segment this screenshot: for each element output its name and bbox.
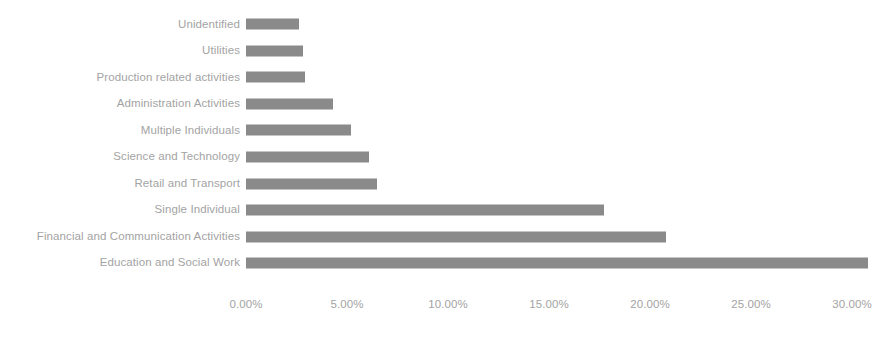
bar-chart: UnidentifiedUtilitiesProduction related … (0, 0, 886, 340)
category-label: Administration Activities (0, 98, 240, 110)
bar-track (246, 98, 866, 109)
bar-track (246, 72, 866, 83)
axis-tick-label: 10.00% (428, 298, 468, 310)
bar-row: Science and Technology (0, 144, 886, 171)
x-axis: 0.00%5.00%10.00%15.00%20.00%25.00%30.00% (0, 298, 886, 318)
bar[interactable] (246, 231, 666, 242)
bar-row: Administration Activities (0, 91, 886, 118)
bar-row: Unidentified (0, 11, 886, 38)
category-label: Production related activities (0, 72, 240, 84)
category-label: Science and Technology (0, 151, 240, 163)
bar-track (246, 152, 866, 163)
bar-row: Retail and Transport (0, 170, 886, 197)
axis-tick-label: 20.00% (630, 298, 670, 310)
bar[interactable] (246, 258, 868, 269)
category-label: Multiple Individuals (0, 125, 240, 137)
bar-track (246, 45, 866, 56)
bar-track (246, 178, 866, 189)
bar-row: Utilities (0, 38, 886, 65)
category-label: Unidentified (0, 19, 240, 31)
axis-tick-label: 15.00% (529, 298, 569, 310)
axis-tick-label: 5.00% (330, 298, 363, 310)
axis-tick-label: 25.00% (731, 298, 771, 310)
category-label: Utilities (0, 45, 240, 57)
bar-track (246, 125, 866, 136)
bar-track (246, 19, 866, 30)
bar[interactable] (246, 72, 305, 83)
axis-tick-label: 0.00% (229, 298, 262, 310)
bar-row: Single Individual (0, 197, 886, 224)
bar[interactable] (246, 178, 377, 189)
category-label: Retail and Transport (0, 178, 240, 190)
category-label: Education and Social Work (0, 257, 240, 269)
bar-row: Financial and Communication Activities (0, 223, 886, 250)
bar-row: Education and Social Work (0, 250, 886, 277)
bar[interactable] (246, 125, 351, 136)
bar[interactable] (246, 19, 299, 30)
bar-track (246, 258, 866, 269)
category-label: Financial and Communication Activities (0, 231, 240, 243)
plot-area: UnidentifiedUtilitiesProduction related … (0, 0, 886, 296)
bar[interactable] (246, 45, 303, 56)
bar-row: Production related activities (0, 64, 886, 91)
bar-rows: UnidentifiedUtilitiesProduction related … (0, 11, 886, 276)
bar[interactable] (246, 152, 369, 163)
bar-track (246, 205, 866, 216)
bar-track (246, 231, 866, 242)
category-label: Single Individual (0, 204, 240, 216)
bar[interactable] (246, 98, 333, 109)
bar-row: Multiple Individuals (0, 117, 886, 144)
bar[interactable] (246, 205, 604, 216)
axis-tick-label: 30.00% (832, 298, 872, 310)
